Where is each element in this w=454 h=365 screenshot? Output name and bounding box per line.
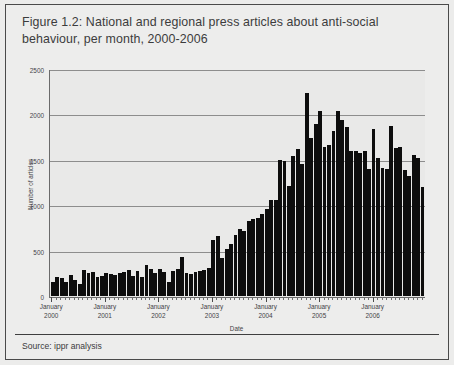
x-tick-minor (324, 297, 325, 300)
x-tick-minor (194, 297, 195, 300)
bar (412, 155, 416, 296)
bar (87, 273, 91, 296)
bar (96, 277, 100, 296)
x-tick-minor (257, 297, 258, 300)
x-tick-minor (395, 297, 396, 300)
x-tick-major (105, 297, 106, 302)
x-tick-minor (181, 297, 182, 300)
bar (145, 265, 149, 296)
x-tick-minor (82, 297, 83, 300)
x-tick-label: January2000 (40, 303, 63, 320)
x-tick-minor (100, 297, 101, 300)
bar (300, 164, 304, 296)
bar (104, 273, 108, 296)
bar (60, 278, 64, 296)
x-tick-minor (176, 297, 177, 300)
bar (389, 126, 393, 296)
x-tick-minor (359, 297, 360, 300)
x-tick-minor (96, 297, 97, 300)
x-tick-label: January2003 (201, 303, 224, 320)
bar (265, 209, 269, 296)
bar (340, 120, 344, 296)
figure-title: Figure 1.2: National and regional press … (22, 14, 432, 48)
bar (220, 258, 224, 296)
bar (403, 170, 407, 296)
x-tick-minor (279, 297, 280, 300)
bar (180, 257, 184, 296)
bar (69, 275, 73, 296)
x-tick-minor (216, 297, 217, 300)
y-axis-label: Number of articles (27, 159, 34, 210)
bar (323, 147, 327, 296)
bar (287, 186, 291, 296)
bar (318, 111, 322, 296)
bar (242, 231, 246, 296)
bar (260, 214, 264, 296)
bar (416, 158, 420, 296)
bar (332, 131, 336, 296)
x-tick-minor (413, 297, 414, 300)
bar (336, 111, 340, 296)
x-tick-label: January2006 (361, 303, 384, 320)
x-tick-minor (74, 297, 75, 300)
x-tick-minor (399, 297, 400, 300)
bar (198, 271, 202, 296)
x-tick-major (158, 297, 159, 302)
x-tick-minor (328, 297, 329, 300)
x-tick-minor (422, 297, 423, 300)
bar (269, 200, 273, 296)
bar (113, 275, 117, 296)
x-tick-minor (274, 297, 275, 300)
x-tick-minor (78, 297, 79, 300)
x-tick-minor (145, 297, 146, 300)
x-tick-minor (382, 297, 383, 300)
x-tick-minor (132, 297, 133, 300)
x-tick-minor (386, 297, 387, 300)
bar (100, 276, 104, 296)
bar (398, 147, 402, 296)
x-tick-minor (123, 297, 124, 300)
bar (421, 187, 425, 296)
y-tick-label: 2500 (30, 67, 44, 74)
x-tick-minor (368, 297, 369, 300)
x-tick-minor (310, 297, 311, 300)
bar (234, 235, 238, 296)
bar (238, 229, 242, 296)
bar (127, 270, 131, 296)
x-tick-minor (248, 297, 249, 300)
bar (167, 282, 171, 296)
bar (207, 268, 211, 296)
bar (225, 249, 229, 296)
x-tick-minor (225, 297, 226, 300)
x-tick-minor (377, 297, 378, 300)
x-tick-minor (149, 297, 150, 300)
x-tick-minor (337, 297, 338, 300)
x-tick-minor (301, 297, 302, 300)
bar (91, 272, 95, 296)
x-tick-minor (118, 297, 119, 300)
bar (73, 280, 77, 296)
x-tick-minor (154, 297, 155, 300)
x-tick-minor (207, 297, 208, 300)
bar (354, 151, 358, 296)
bar (381, 168, 385, 296)
x-tick-minor (417, 297, 418, 300)
x-tick-major (212, 297, 213, 302)
bar (189, 274, 193, 296)
bar (291, 156, 295, 296)
bar (211, 240, 215, 296)
x-tick-minor (288, 297, 289, 300)
x-tick-minor (297, 297, 298, 300)
x-tick-minor (270, 297, 271, 300)
y-tick-label: 2000 (30, 112, 44, 119)
bar (376, 158, 380, 296)
x-tick-minor (306, 297, 307, 300)
bar (185, 273, 189, 296)
bar (153, 273, 157, 297)
bar (202, 270, 206, 296)
x-tick-minor (56, 297, 57, 300)
x-tick-minor (239, 297, 240, 300)
bar (78, 284, 82, 296)
source-divider (15, 334, 439, 335)
bar (82, 270, 86, 296)
